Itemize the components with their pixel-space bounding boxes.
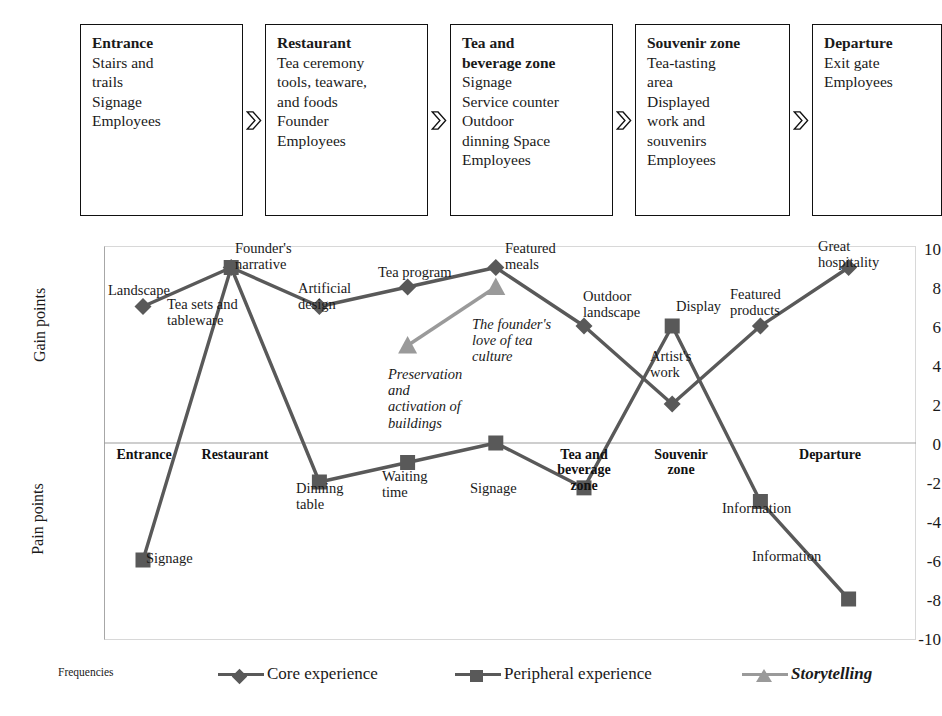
legend-line-storytelling xyxy=(742,673,788,676)
diamond-marker-icon xyxy=(232,668,248,684)
stage-line: dinning Space xyxy=(462,131,603,151)
point-label-preservation: Preservation and activation of buildings xyxy=(388,366,498,431)
point-label-tea-program: Tea program xyxy=(378,264,451,280)
square-marker-icon xyxy=(470,670,483,682)
point-label-tea-sets: Tea sets and tableware xyxy=(167,296,238,328)
stage-box-departure: Departure Exit gate Employees xyxy=(812,24,942,216)
point-label-display: Display xyxy=(676,298,721,314)
stage-line: Service counter xyxy=(462,92,603,112)
stage-line: Founder xyxy=(277,111,418,131)
stage-box-souvenir-zone: Souvenir zone Tea-tasting area Displayed… xyxy=(635,24,790,216)
stage-line: Signage xyxy=(462,72,603,92)
stage-line: Tea-tasting xyxy=(647,53,780,73)
stage-title: Tea and xyxy=(462,33,603,53)
legend-label: Storytelling xyxy=(791,664,872,684)
stage-title: Entrance xyxy=(92,33,233,53)
point-label-artists-work: Artist's work xyxy=(650,348,691,380)
axis-stage-label-departure: Departure xyxy=(775,447,885,462)
chart-legend: Frequencies Core experience Peripheral e… xyxy=(0,660,941,694)
point-label-signage-tea-zone: Signage xyxy=(470,480,517,496)
legend-line-core xyxy=(218,673,264,676)
point-label-featured-products: Featured products xyxy=(730,286,781,318)
stage-box-entrance: Entrance Stairs and trails Signage Emplo… xyxy=(80,24,243,216)
journey-stage-row: Entrance Stairs and trails Signage Emplo… xyxy=(80,24,920,216)
point-label-landscape: Landscape xyxy=(108,282,170,298)
chevron-right-icon xyxy=(246,111,262,130)
point-label-great-hospitality: Great hospitality xyxy=(818,238,879,270)
stage-arrow-1 xyxy=(243,24,265,216)
legend-caption: Frequencies xyxy=(58,666,114,678)
point-label-dinning-table: Dinning table xyxy=(296,480,344,512)
point-label-founders-love: The founder's love of tea culture xyxy=(472,316,590,365)
stage-line: Displayed xyxy=(647,92,780,112)
stage-line: Employees xyxy=(824,72,932,92)
stage-title: beverage zone xyxy=(462,53,603,73)
stage-line: souvenirs xyxy=(647,131,780,151)
stage-title: Restaurant xyxy=(277,33,418,53)
stage-arrow-3 xyxy=(613,24,635,216)
point-label-waiting-time: Waiting time xyxy=(382,468,428,500)
stage-line: Outdoor xyxy=(462,111,603,131)
stage-line: Employees xyxy=(462,150,603,170)
axis-stage-label-restaurant: Restaurant xyxy=(185,447,285,462)
axis-stage-label-entrance: Entrance xyxy=(98,447,190,462)
point-label-artificial-design: Artificial design xyxy=(298,280,351,312)
stage-line: Employees xyxy=(92,111,233,131)
point-label-featured-meals: Featured meals xyxy=(505,240,556,272)
stage-line: Exit gate xyxy=(824,53,932,73)
triangle-marker-icon xyxy=(756,669,772,682)
chevron-right-icon xyxy=(616,111,632,130)
stage-line: Employees xyxy=(277,131,418,151)
stage-arrow-4 xyxy=(790,24,812,216)
stage-title: Souvenir zone xyxy=(647,33,780,53)
chevron-right-icon xyxy=(793,111,809,130)
stage-line: area xyxy=(647,72,780,92)
point-label-information-2: Information xyxy=(752,548,821,564)
stage-title: Departure xyxy=(824,33,932,53)
legend-label: Peripheral experience xyxy=(504,664,652,684)
legend-item-storytelling[interactable]: Storytelling xyxy=(742,664,872,684)
legend-label: Core experience xyxy=(267,664,378,684)
legend-item-peripheral-experience[interactable]: Peripheral experience xyxy=(455,664,652,684)
stage-line: Tea ceremony xyxy=(277,53,418,73)
stage-line: Signage xyxy=(92,92,233,112)
stage-line: work and xyxy=(647,111,780,131)
customer-journey-chart: Gain points Pain points 10 8 6 4 2 0 -2 … xyxy=(0,228,941,658)
point-label-information-1: Information xyxy=(722,500,791,516)
point-label-signage-entrance: Signage xyxy=(146,550,193,566)
point-label-outdoor-landscape: Outdoor landscape xyxy=(583,288,640,320)
stage-box-tea-and-beverage-zone: Tea and beverage zone Signage Service co… xyxy=(450,24,613,216)
stage-line: tools, teaware, xyxy=(277,72,418,92)
legend-line-peripheral xyxy=(455,673,501,676)
stage-line: and foods xyxy=(277,92,418,112)
stage-box-restaurant: Restaurant Tea ceremony tools, teaware, … xyxy=(265,24,428,216)
stage-line: Employees xyxy=(647,150,780,170)
stage-line: trails xyxy=(92,72,233,92)
axis-stage-label-souvenir: Souvenir zone xyxy=(635,447,727,478)
axis-stage-label-tea-zone: Tea and beverage zone xyxy=(538,447,630,493)
stage-line: Stairs and xyxy=(92,53,233,73)
chevron-right-icon xyxy=(431,111,447,130)
point-label-founders-narrative: Founder's narrative xyxy=(235,240,292,272)
legend-item-core-experience[interactable]: Core experience xyxy=(218,664,378,684)
stage-arrow-2 xyxy=(428,24,450,216)
